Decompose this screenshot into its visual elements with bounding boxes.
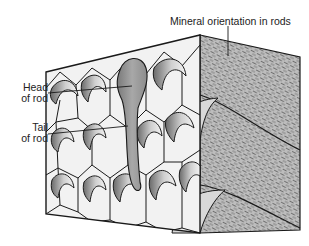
front-face [46,35,200,233]
label-head-of-rod: Head of rod [8,82,48,104]
label-tail-of-rod: Tail of rod [8,122,48,144]
label-tail-line2: of rod [8,133,48,144]
label-mineral-orientation: Mineral orientation in rods [170,16,291,27]
label-head-line2: of rod [8,93,48,104]
